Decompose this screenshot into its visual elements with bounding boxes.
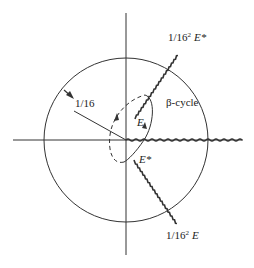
point-e-label: E: [136, 116, 144, 128]
radius-arrow-icon: [64, 90, 74, 99]
point-e-star-label: E*: [138, 153, 152, 165]
upper-branch-cut: [135, 55, 178, 119]
lower-branch-cut: [134, 160, 177, 223]
beta-cycle-label: β-cycle: [166, 96, 199, 108]
upper-cut-label: 1/162E*: [168, 31, 207, 43]
radius-line: [74, 111, 126, 140]
branch-cut-diagram: 1/162E* β-cycle E 1/16 E* 1/162E: [0, 0, 254, 268]
beta-cycle-solid: [124, 95, 152, 162]
radius-label: 1/16: [75, 97, 95, 109]
lower-cut-label: 1/162E: [166, 229, 199, 241]
